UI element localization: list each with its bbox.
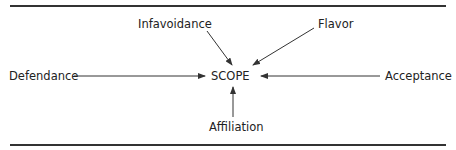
- node-flavor: Flavor: [318, 17, 353, 31]
- arrow-flavor: [253, 28, 314, 65]
- node-acceptance: Acceptance: [385, 69, 452, 83]
- node-affiliation: Affiliation: [209, 120, 263, 134]
- node-defendance: Defendance: [9, 69, 78, 83]
- center-scope: SCOPE: [211, 69, 250, 83]
- arrow-infavoidance: [207, 31, 232, 65]
- node-infavoidance: Infavoidance: [138, 17, 212, 31]
